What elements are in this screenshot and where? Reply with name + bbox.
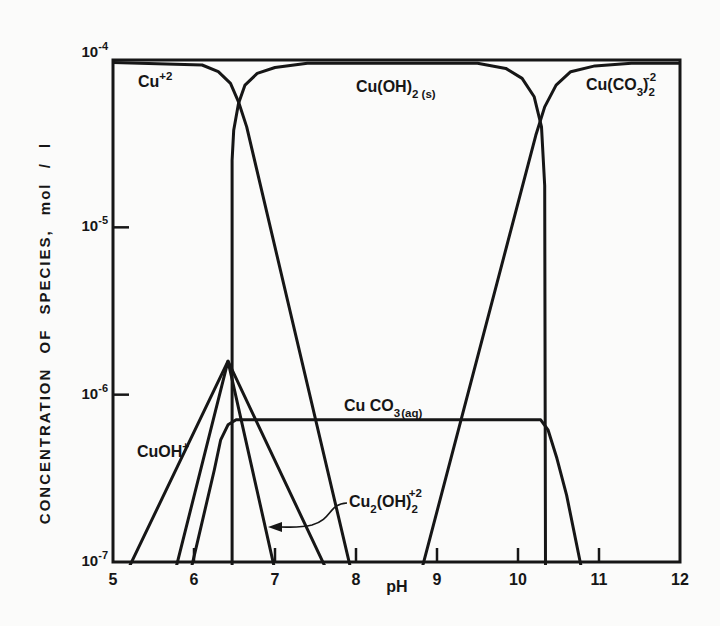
label-cu2oh2: Cu2(OH)2+2 [349, 487, 422, 515]
y-tick-label: 10-4 [82, 40, 109, 60]
label-cuoh2s: Cu(OH)2 (s) [356, 78, 436, 100]
y-tick-label: 10-5 [82, 214, 108, 234]
curve-cuohplus [129, 361, 325, 567]
x-tick-label: 5 [109, 571, 118, 588]
curve-cu2oh2 [176, 361, 274, 567]
x-tick-label: 7 [271, 571, 280, 588]
label-cu2plus: Cu+2 [138, 70, 172, 90]
x-tick-label: 11 [591, 571, 608, 588]
label-cuohplus: CuOH+ [137, 440, 189, 460]
solubility-diagram: 5678910111210-410-510-610-7 CONCENTRATIO… [0, 0, 720, 626]
arrow-head-icon [268, 522, 282, 532]
scanned-chart-page: 5678910111210-410-510-610-7 CONCENTRATIO… [0, 0, 720, 626]
y-axis-title: CONCENTRATION OF SPECIES, mol / l [36, 142, 53, 524]
y-tick-label: 10-6 [82, 382, 108, 402]
x-axis-title: pH [386, 578, 407, 595]
axes-layer [113, 60, 680, 562]
curves-layer [113, 63, 680, 568]
curve-cuoh2s [232, 63, 545, 567]
x-tick-label: 10 [509, 571, 527, 588]
label-cuco32: Cu(CO3)2-2 [586, 71, 656, 98]
x-tick-label: 6 [190, 571, 199, 588]
x-tick-label: 9 [433, 571, 442, 588]
x-tick-label: 12 [671, 571, 689, 588]
plot-border [113, 60, 680, 562]
label-cuco3aq: Cu CO3(aq) [344, 397, 422, 419]
y-tick-label: 10-7 [82, 549, 108, 569]
x-tick-label: 8 [352, 571, 361, 588]
curve-cuco32 [422, 63, 680, 567]
